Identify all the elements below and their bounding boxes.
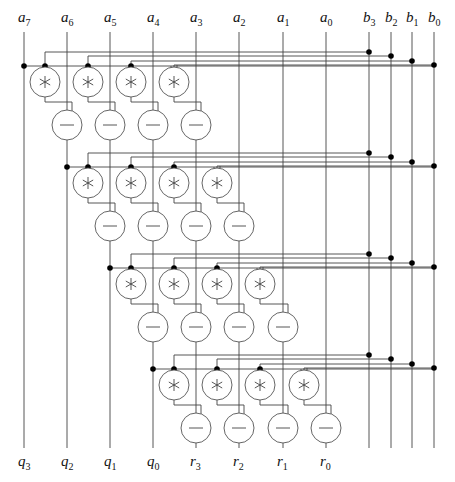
multiply-cell [30, 67, 60, 97]
input-label-a5: a5 [104, 9, 117, 28]
multiply-cell [202, 168, 232, 198]
junction-node [409, 159, 415, 165]
output-label-r0: r0 [320, 453, 331, 472]
subtract-cell [95, 110, 125, 140]
subtract-cell [268, 312, 298, 342]
multiply-cell [159, 67, 189, 97]
subtract-cell [95, 211, 125, 241]
multiply-cell [73, 168, 103, 198]
input-label-b0: b0 [428, 9, 441, 28]
subtract-cell [181, 312, 211, 342]
junction-node [366, 150, 372, 156]
subtract-cell [138, 211, 168, 241]
input-label-a3: a3 [190, 9, 203, 28]
junction-node [431, 365, 437, 371]
output-label-r3: r3 [190, 453, 201, 472]
input-label-a4: a4 [147, 9, 160, 28]
output-label-r2: r2 [233, 453, 244, 472]
multiply-cell [73, 67, 103, 97]
junction-node [388, 154, 394, 160]
junction-node [409, 58, 415, 64]
input-labels: a7a6a5a4a3a2a1a0b3b2b1b0 [18, 9, 441, 28]
junction-node [388, 53, 394, 59]
junction-node [107, 265, 113, 271]
subtract-cell [224, 211, 254, 241]
multiply-cell [245, 370, 275, 400]
subtract-cell [52, 110, 82, 140]
junction-node [431, 264, 437, 270]
input-label-b2: b2 [385, 9, 398, 28]
junction-node [21, 63, 27, 69]
junction-node [388, 356, 394, 362]
junction-node [366, 49, 372, 55]
subtract-cell [224, 312, 254, 342]
junction-node [431, 62, 437, 68]
multiply-cell [159, 370, 189, 400]
subtract-cell [224, 413, 254, 443]
input-label-a0: a0 [320, 9, 333, 28]
input-label-a1: a1 [277, 9, 290, 28]
subtract-cell [181, 110, 211, 140]
junction-node [366, 352, 372, 358]
junction-node [64, 164, 70, 170]
multiply-cell [116, 168, 146, 198]
output-label-r1: r1 [277, 453, 288, 472]
subtract-cell [268, 413, 298, 443]
output-label-q0: q0 [147, 453, 160, 472]
output-label-q1: q1 [104, 453, 117, 472]
multiply-cell [202, 370, 232, 400]
input-label-b1: b1 [406, 9, 419, 28]
multiply-cell [245, 269, 275, 299]
multiply-cell [202, 269, 232, 299]
subtract-cell [138, 110, 168, 140]
input-label-a2: a2 [233, 9, 246, 28]
subtract-cell [181, 211, 211, 241]
multiply-cell [159, 269, 189, 299]
operator-cells [30, 67, 341, 443]
junction-node [409, 260, 415, 266]
subtract-cell [138, 312, 168, 342]
output-label-q3: q3 [18, 453, 31, 472]
input-label-b3: b3 [363, 9, 376, 28]
subtract-cell [311, 413, 341, 443]
input-label-a7: a7 [18, 9, 31, 28]
output-labels: q3q2q1q0r3r2r1r0 [18, 453, 331, 472]
multiply-cell [289, 370, 319, 400]
junction-node [409, 361, 415, 367]
input-label-a6: a6 [61, 9, 74, 28]
subtract-cell [181, 413, 211, 443]
junction-node [366, 251, 372, 257]
output-label-q2: q2 [61, 453, 74, 472]
junction-node [150, 366, 156, 372]
junction-node [388, 255, 394, 261]
junction-node [431, 163, 437, 169]
multiply-cell [159, 168, 189, 198]
multiply-cell [116, 269, 146, 299]
multiply-cell [116, 67, 146, 97]
division-array-diagram: a7a6a5a4a3a2a1a0b3b2b1b0 q3q2q1q0r3r2r1r… [0, 0, 455, 482]
